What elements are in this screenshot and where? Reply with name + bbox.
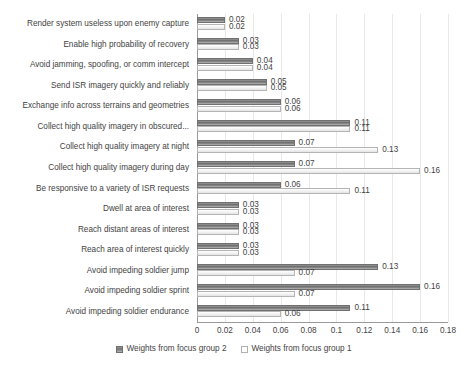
category-axis-labels: Render system useless upon enemy capture… — [0, 14, 193, 322]
category-label: Avoid impeding soldier sprint — [84, 286, 189, 295]
category-label: Collect high quality imagery in obscured… — [37, 122, 189, 131]
legend-swatch-icon — [116, 346, 123, 353]
bar-dark — [197, 99, 281, 105]
category-label: Avoid impeding soldier endurance — [66, 307, 189, 316]
legend-item[interactable]: Weights from focus group 2 — [116, 344, 227, 354]
gridline-0.18 — [448, 14, 449, 322]
bar-dark — [197, 305, 350, 311]
category-label: Collect high quality imagery during day — [48, 163, 189, 172]
bar-light — [197, 106, 281, 112]
x-axis-line — [197, 322, 448, 323]
bar-value-label: 0.04 — [257, 64, 273, 72]
bar-value-label: 0.02 — [229, 23, 245, 31]
bar-value-label: 0.03 — [243, 249, 259, 257]
legend-swatch-icon — [241, 346, 248, 353]
bar-dark — [197, 182, 281, 188]
category-label: Render system useless upon enemy capture — [27, 19, 189, 28]
chart-legend: Weights from focus group 2Weights from f… — [0, 344, 467, 354]
category-label: Exchange info across terrains and geomet… — [22, 101, 189, 110]
bar-value-label: 0.03 — [243, 43, 259, 51]
bar-dark — [197, 140, 295, 146]
x-tick-label: 0.16 — [412, 326, 428, 336]
bar-light — [197, 24, 225, 30]
bar-value-label: 0.07 — [299, 290, 315, 298]
bar-dark — [197, 58, 253, 64]
legend-label: Weights from focus group 2 — [127, 344, 227, 354]
bar-value-label: 0.11 — [354, 304, 369, 312]
x-tick-label: 0.06 — [273, 326, 289, 336]
bar-dark — [197, 38, 239, 44]
bar-dark — [197, 17, 225, 23]
x-tick-label: 0.08 — [301, 326, 317, 336]
bar-dark — [197, 264, 378, 270]
bar-light — [197, 168, 420, 174]
x-tick-label: 0.02 — [217, 326, 233, 336]
bar-dark — [197, 120, 350, 126]
bar-value-label: 0.05 — [271, 84, 287, 92]
bar-light — [197, 229, 239, 235]
bar-dark — [197, 79, 267, 85]
bar-light — [197, 311, 281, 317]
category-label: Dwell at area of interest — [103, 204, 189, 213]
x-tick-label: 0 — [195, 326, 200, 336]
x-tick-label: 0.14 — [384, 326, 400, 336]
bar-value-label: 0.13 — [382, 146, 398, 154]
bar-dark — [197, 161, 295, 167]
category-label: Reach distant areas of interest — [78, 225, 189, 234]
category-label: Collect high quality imagery at night — [60, 142, 189, 151]
bar-value-label: 0.06 — [285, 310, 301, 318]
bar-light — [197, 126, 350, 132]
bar-light — [197, 65, 253, 71]
x-tick-label: 0.18 — [440, 326, 456, 336]
category-label: Avoid impeding soldier jump — [87, 266, 189, 275]
category-label: Enable high probability of recovery — [63, 40, 189, 49]
bar-light — [197, 188, 350, 194]
legend-label: Weights from focus group 1 — [252, 344, 352, 354]
category-label: Send ISR imagery quickly and reliably — [51, 81, 189, 90]
bar-dark — [197, 243, 239, 249]
bar-value-label: 0.07 — [299, 269, 315, 277]
bar-light — [197, 291, 295, 297]
category-label: Avoid jamming, spoofing, or comm interce… — [30, 60, 189, 69]
bar-light — [197, 147, 378, 153]
bar-light — [197, 85, 267, 91]
bar-light — [197, 44, 239, 50]
bar-value-label: 0.13 — [382, 263, 398, 271]
bar-dark — [197, 223, 239, 229]
bar-value-label: 0.16 — [424, 283, 440, 291]
bar-value-label: 0.11 — [354, 187, 369, 195]
bar-light — [197, 250, 239, 256]
bar-light — [197, 270, 295, 276]
bar-value-label: 0.16 — [424, 167, 440, 175]
bar-light — [197, 209, 239, 215]
category-label: Reach area of interest quickly — [81, 245, 189, 254]
bar-value-label: 0.06 — [285, 105, 301, 113]
legend-item[interactable]: Weights from focus group 1 — [241, 344, 352, 354]
bar-value-label: 0.11 — [354, 125, 369, 133]
x-tick-label: 0.04 — [245, 326, 261, 336]
x-tick-label: 0.12 — [356, 326, 372, 336]
bar-value-label: 0.03 — [243, 228, 259, 236]
bar-dark — [197, 202, 239, 208]
x-tick-label: 0.1 — [331, 326, 342, 336]
plot-area: 0.020.020.030.030.040.040.050.050.060.06… — [197, 14, 448, 322]
bar-chart: Render system useless upon enemy capture… — [0, 0, 467, 366]
bar-value-label: 0.03 — [243, 208, 259, 216]
gridline-0.16 — [420, 14, 421, 322]
category-label: Be responsive to a variety of ISR reques… — [36, 184, 189, 193]
